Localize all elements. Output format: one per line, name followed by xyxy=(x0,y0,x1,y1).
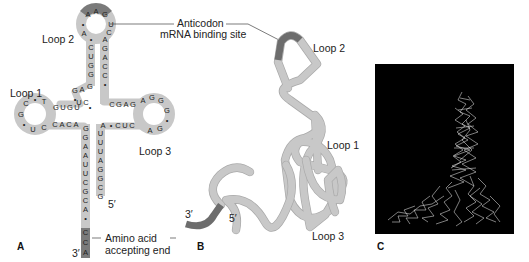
svg-text:C: C xyxy=(66,120,72,129)
svg-text:U: U xyxy=(83,160,88,169)
svg-text:U: U xyxy=(60,103,65,112)
model-background xyxy=(375,64,514,234)
svg-text:•: • xyxy=(23,120,26,129)
svg-text:•: • xyxy=(104,80,107,89)
svg-text:A: A xyxy=(147,126,152,135)
svg-text:•: • xyxy=(110,121,113,130)
svg-text:C: C xyxy=(52,120,58,129)
svg-text:A: A xyxy=(73,120,78,129)
svg-text:G: G xyxy=(116,100,122,109)
svg-text:A: A xyxy=(83,151,88,160)
svg-text:•: • xyxy=(82,20,85,29)
svg-text:C: C xyxy=(109,100,115,109)
svg-text:U: U xyxy=(83,169,88,178)
svg-text:U: U xyxy=(122,121,127,130)
svg-text:G: G xyxy=(18,110,24,119)
svg-text:C: C xyxy=(102,62,108,71)
svg-text:U: U xyxy=(74,103,79,112)
loop3-label: Loop 3 xyxy=(139,145,171,157)
svg-text:A: A xyxy=(102,53,107,62)
svg-text:•: • xyxy=(89,103,92,112)
svg-text:A: A xyxy=(83,205,88,214)
svg-text:C: C xyxy=(98,183,104,192)
panel-b-ribbon: Loop 2 Loop 1 Loop 3 3′ 5′ B xyxy=(185,35,359,252)
anticodon-label-line2: mRNA binding site xyxy=(160,28,247,40)
svg-text:G: G xyxy=(83,133,89,142)
panel-c-model: C xyxy=(375,64,514,252)
svg-text:G: G xyxy=(67,103,73,112)
svg-text:C: C xyxy=(83,238,89,247)
amino-acid-label-line2: accepting end xyxy=(105,244,171,256)
svg-text:•: • xyxy=(84,214,87,223)
svg-text:G: G xyxy=(102,10,108,19)
svg-text:G: G xyxy=(130,100,136,109)
svg-text:C: C xyxy=(83,178,89,187)
svg-text:C: C xyxy=(115,121,121,130)
svg-text:A: A xyxy=(59,120,64,129)
amino-acid-label-line1: Amino acid xyxy=(105,232,157,244)
panel-b-label: B xyxy=(197,241,204,252)
svg-text:C: C xyxy=(102,71,108,80)
svg-text:G: G xyxy=(83,124,89,133)
panel-c-label: C xyxy=(377,241,384,252)
loop3-label-b: Loop 3 xyxy=(312,230,344,242)
loop1-label-b: Loop 1 xyxy=(327,139,359,151)
svg-text:G: G xyxy=(87,82,93,91)
svg-text:A: A xyxy=(81,29,86,38)
svg-text:C: C xyxy=(23,99,29,108)
loop1-label: Loop 1 xyxy=(10,87,42,99)
svg-text:A: A xyxy=(85,10,90,19)
svg-text:C: C xyxy=(88,43,94,52)
svg-text:•: • xyxy=(166,116,169,125)
svg-text:G: G xyxy=(164,106,170,115)
loop2-label-b: Loop 2 xyxy=(313,42,345,54)
svg-text:T: T xyxy=(42,97,47,106)
svg-text:G: G xyxy=(158,96,164,105)
svg-text:C: C xyxy=(83,196,89,205)
svg-text:G: G xyxy=(83,187,89,196)
loop2-label: Loop 2 xyxy=(42,33,74,45)
svg-text:G: G xyxy=(98,192,104,201)
svg-text:G: G xyxy=(72,86,78,95)
svg-text:A: A xyxy=(102,35,107,44)
svg-text:G: G xyxy=(98,174,104,183)
svg-text:G: G xyxy=(98,165,104,174)
svg-text:U: U xyxy=(88,52,93,61)
svg-text:A: A xyxy=(98,156,103,165)
svg-text:U: U xyxy=(98,147,103,156)
svg-text:U: U xyxy=(98,138,103,147)
three-prime-label-a: 3′ xyxy=(72,247,80,259)
svg-text:G: G xyxy=(157,124,163,133)
five-prime-label-a: 5′ xyxy=(108,198,116,210)
svg-text:A: A xyxy=(79,85,84,94)
svg-text:G: G xyxy=(88,70,94,79)
svg-text:C: C xyxy=(83,228,89,237)
svg-text:A: A xyxy=(83,142,88,151)
svg-text:C: C xyxy=(129,121,135,130)
svg-text:G: G xyxy=(149,93,155,102)
svg-text:A: A xyxy=(123,100,128,109)
svg-text:A: A xyxy=(83,248,88,257)
svg-text:G: G xyxy=(53,103,59,112)
svg-text:U: U xyxy=(98,129,103,138)
five-prime-label-b: 5′ xyxy=(229,212,237,224)
svg-text:G: G xyxy=(102,44,108,53)
svg-text:G: G xyxy=(88,61,94,70)
svg-text:A: A xyxy=(140,96,145,105)
trna-figure: A A G • A • U C C U G G A G A C C • G A … xyxy=(0,0,529,262)
three-prime-label-b: 3′ xyxy=(185,208,193,220)
svg-text:A: A xyxy=(93,7,98,16)
svg-text:U: U xyxy=(30,125,35,134)
panel-a-label: A xyxy=(17,241,24,252)
svg-text:C: C xyxy=(41,123,47,132)
